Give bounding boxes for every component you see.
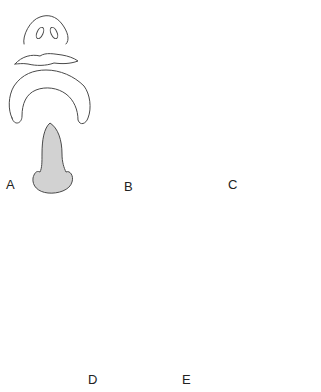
nose-icon xyxy=(24,16,68,44)
panel-label-e: E xyxy=(182,373,191,386)
panel-label-a: A xyxy=(6,178,15,191)
panel-label-c: C xyxy=(228,178,237,191)
panel-label-b: B xyxy=(124,180,133,193)
nostril-right xyxy=(49,26,60,39)
nostril-left xyxy=(35,26,46,39)
septum-shape xyxy=(33,123,73,193)
maxillary-arch xyxy=(9,70,90,124)
panel-a xyxy=(9,16,90,193)
upper-lip xyxy=(15,54,78,66)
anatomy-figure xyxy=(0,0,321,392)
panel-label-d: D xyxy=(88,373,97,386)
